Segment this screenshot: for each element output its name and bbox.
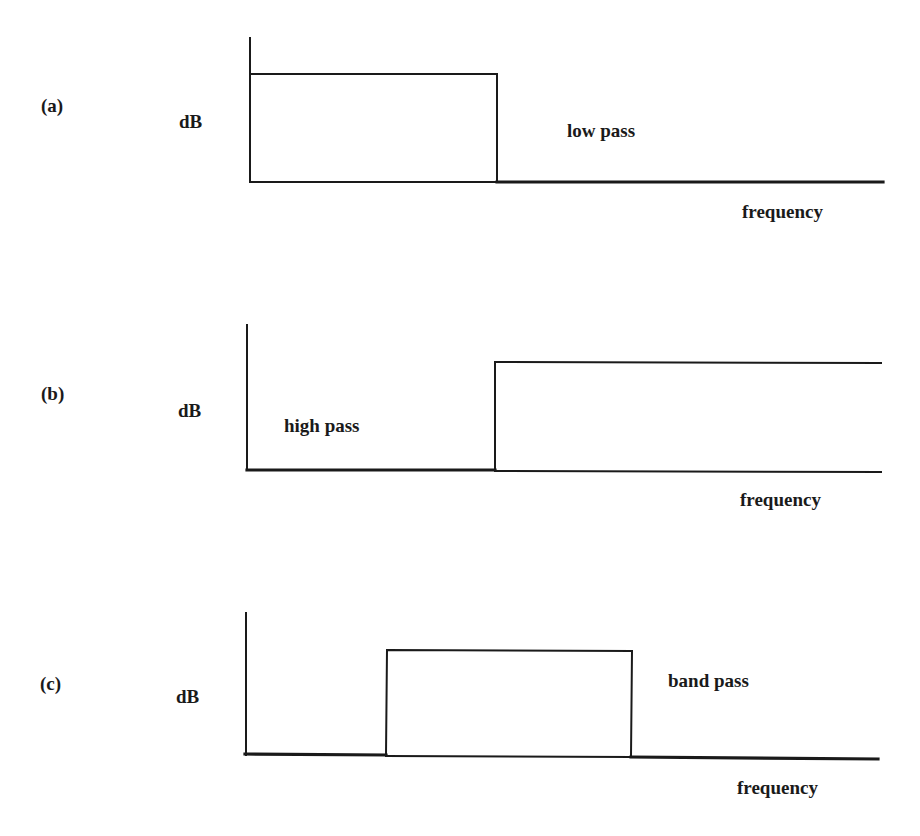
band-pass-plot bbox=[0, 0, 920, 836]
panel-tag: (c) bbox=[40, 674, 61, 693]
lower-stopband-response bbox=[245, 754, 386, 755]
filter-caption: band pass bbox=[668, 671, 749, 690]
panel-band-pass: (c) dB band pass frequency bbox=[0, 0, 920, 836]
x-axis bbox=[386, 756, 631, 757]
passband-response bbox=[386, 650, 632, 757]
upper-stopband-response bbox=[631, 757, 878, 759]
x-axis-label: frequency bbox=[737, 778, 818, 797]
y-axis-label: dB bbox=[176, 687, 199, 706]
